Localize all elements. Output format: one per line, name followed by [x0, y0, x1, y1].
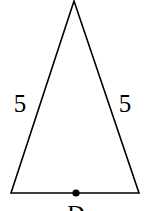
base-point-dot: [72, 189, 79, 196]
right-side-label: 5: [119, 90, 132, 117]
base-point-label: D: [67, 200, 84, 211]
diagram-svg: 5 5 D: [0, 0, 153, 211]
triangle-diagram: 5 5 D: [0, 0, 153, 211]
left-side-label: 5: [14, 90, 27, 117]
